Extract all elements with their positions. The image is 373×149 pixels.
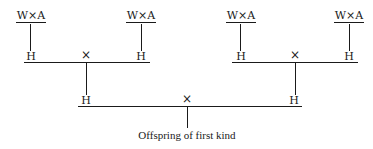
parent-cross-label: W×A <box>334 10 364 23</box>
connector-line <box>141 24 142 51</box>
connector-line <box>240 24 241 51</box>
parent-cross-1: W×A <box>11 10 51 23</box>
parent-cross-label: W×A <box>226 10 256 23</box>
breeding-diagram: W×A W×A W×A W×A H H H H × × H H × Offspr… <box>0 0 373 149</box>
final-cross-bar <box>78 106 302 107</box>
hybrid-h-2: H <box>133 51 149 62</box>
parent-cross-4: W×A <box>329 10 369 23</box>
cross-symbol-1: × <box>79 49 93 61</box>
hybrid-h-4: H <box>341 51 357 62</box>
parent-cross-2: W×A <box>121 10 161 23</box>
parent-cross-label: W×A <box>126 10 156 23</box>
parent-cross-3: W×A <box>221 10 261 23</box>
connector-line <box>295 62 296 95</box>
hybrid-h-3: H <box>233 51 249 62</box>
hybrid-h-1: H <box>23 51 39 62</box>
parent-cross-label: W×A <box>16 10 46 23</box>
connector-line <box>187 106 188 128</box>
final-cross-symbol: × <box>180 93 194 105</box>
cross-symbol-2: × <box>288 49 302 61</box>
second-hybrid-h-1: H <box>78 95 94 106</box>
connector-line <box>86 62 87 95</box>
connector-line <box>30 24 31 51</box>
cross-bar <box>24 62 150 63</box>
offspring-label: Offspring of first kind <box>117 130 257 141</box>
connector-line <box>349 24 350 51</box>
second-hybrid-h-2: H <box>286 95 302 106</box>
